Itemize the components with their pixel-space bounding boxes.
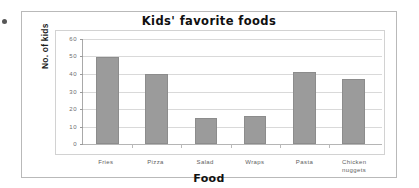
- plot-box: 0102030405060: [55, 30, 385, 155]
- y-axis-tick-label: 20: [69, 106, 77, 112]
- x-axis-tick: [329, 144, 330, 148]
- x-axis-tick: [231, 144, 232, 148]
- scan-artifact-mark: [2, 19, 7, 24]
- x-axis-tick: [280, 144, 281, 148]
- bar: [342, 79, 365, 144]
- bar-slot: [132, 39, 181, 144]
- x-axis-title: Food: [22, 172, 396, 185]
- y-axis-tick-label: 60: [69, 36, 77, 42]
- bar-slot: [83, 39, 132, 144]
- x-axis-tick: [132, 144, 133, 148]
- bar: [244, 116, 267, 144]
- gridline: [83, 144, 382, 145]
- bar-slot: [280, 39, 329, 144]
- y-axis-tick-label: 10: [69, 124, 77, 130]
- plot-area: 0102030405060: [82, 39, 378, 145]
- chart-title: Kids' favorite foods: [22, 14, 396, 28]
- y-axis-tick: [80, 144, 83, 145]
- y-axis-tick-label: 0: [73, 141, 77, 147]
- y-axis-tick-label: 30: [69, 89, 77, 95]
- bar-slot: [231, 39, 280, 144]
- y-axis-title: No. of kids: [40, 23, 50, 69]
- bar: [145, 74, 168, 144]
- bar: [195, 118, 218, 144]
- y-axis-tick-label: 50: [69, 53, 77, 59]
- x-axis-tick: [181, 144, 182, 148]
- bar-slot: [329, 39, 378, 144]
- bars-layer: [83, 39, 378, 144]
- chart-container: Kids' favorite foods No. of kids 0102030…: [21, 11, 397, 178]
- bar: [96, 57, 119, 145]
- y-axis-tick-label: 40: [69, 71, 77, 77]
- bar: [293, 72, 316, 144]
- bar-slot: [181, 39, 230, 144]
